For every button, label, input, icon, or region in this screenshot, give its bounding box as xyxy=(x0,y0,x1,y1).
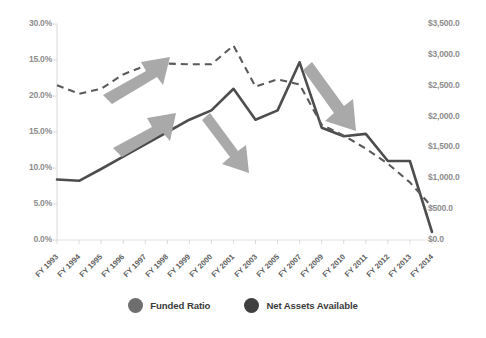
left-axis-tick-label: 10.0% xyxy=(29,162,52,172)
legend-item[interactable]: Net Assets Available xyxy=(244,298,357,313)
left-axis-tick-label: 20.0% xyxy=(29,90,52,100)
legend-label: Net Assets Available xyxy=(266,300,357,311)
chart-legend: Funded RatioNet Assets Available xyxy=(0,298,486,313)
right-axis-tick-label: $0.0 xyxy=(428,234,444,244)
legend-label: Funded Ratio xyxy=(150,300,210,311)
axis-lines xyxy=(57,24,432,240)
legend-marker-icon xyxy=(244,298,259,313)
right-axis-tick-label: $3,500.0 xyxy=(428,18,460,28)
left-axis-tick-label: 15.0% xyxy=(29,126,52,136)
right-axis-tick-label: $1,000.0 xyxy=(428,172,460,182)
chart-container: 30.0%15.0%20.0%15.0%10.0%5.0%0.0% $3,500… xyxy=(0,0,486,338)
down-arrow-middle-icon xyxy=(202,113,249,173)
series-funded-ratio xyxy=(57,46,432,207)
y-axis-ticks xyxy=(53,24,57,240)
right-axis-tick-label: $500.0 xyxy=(428,203,453,213)
right-axis: $3,500.0$3,000.0$2,500.0$2,000.0$1,500.0… xyxy=(428,0,484,338)
right-axis-tick-label: $3,000.0 xyxy=(428,49,460,59)
left-axis-tick-label: 5.0% xyxy=(33,198,52,208)
up-arrow-lower-icon xyxy=(113,113,176,157)
left-axis-tick-label: 30.0% xyxy=(29,18,52,28)
legend-item[interactable]: Funded Ratio xyxy=(128,298,210,313)
right-axis-tick-label: $2,000.0 xyxy=(428,111,460,121)
left-axis-tick-label: 15.0% xyxy=(29,54,52,64)
x-axis-ticks xyxy=(57,240,432,244)
legend-marker-icon xyxy=(128,298,143,313)
left-axis-tick-label: 0.0% xyxy=(33,234,52,244)
right-axis-tick-label: $1,500.0 xyxy=(428,141,460,151)
right-axis-tick-label: $2,500.0 xyxy=(428,80,460,90)
